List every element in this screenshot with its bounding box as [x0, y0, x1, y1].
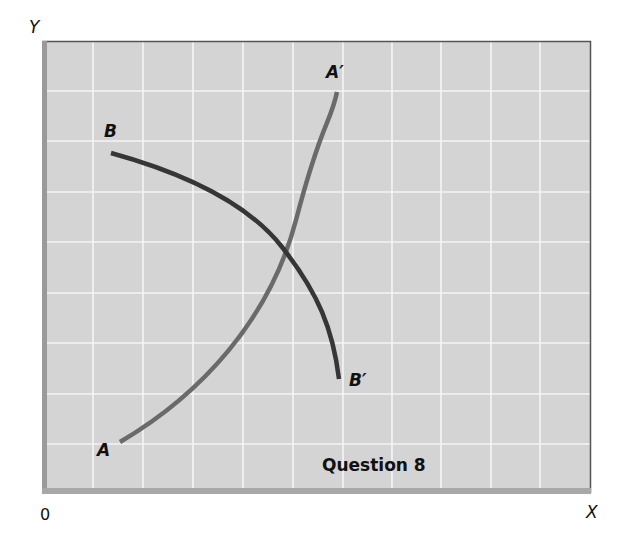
label-b: B — [104, 121, 117, 141]
diagram-figure: Y — [0, 0, 620, 549]
label-a-prime: A′ — [326, 62, 344, 82]
origin-label: 0 — [40, 505, 50, 524]
figure-caption: Question 8 — [322, 455, 426, 475]
plot-area — [42, 41, 591, 493]
plot-svg — [0, 0, 620, 549]
left-border — [42, 41, 47, 494]
label-b-prime: B′ — [349, 370, 366, 390]
x-axis-label: X — [586, 502, 598, 522]
bottom-border — [42, 488, 591, 494]
label-a: A — [97, 440, 110, 460]
